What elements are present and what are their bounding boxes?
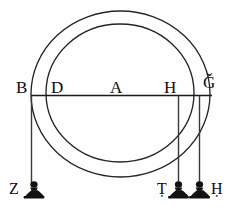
diagram-canvas: B D A H Ǧ Z Ṭ Ḥ — [0, 0, 229, 210]
weight-label-t-dot: Ṭ — [157, 181, 167, 197]
weight-z-shape — [24, 181, 45, 198]
weight-middle-shape — [168, 181, 189, 198]
weight-label-z: Z — [9, 181, 19, 197]
diagram-vector-layer — [0, 0, 229, 210]
weight-right-shape — [189, 181, 210, 198]
point-label-g-caron: Ǧ — [203, 74, 215, 91]
point-label-d: D — [51, 79, 63, 96]
point-label-a: A — [110, 79, 122, 96]
point-label-h: H — [164, 79, 176, 96]
weight-label-h-dot: Ḥ — [211, 181, 223, 197]
point-label-b: B — [16, 79, 27, 96]
